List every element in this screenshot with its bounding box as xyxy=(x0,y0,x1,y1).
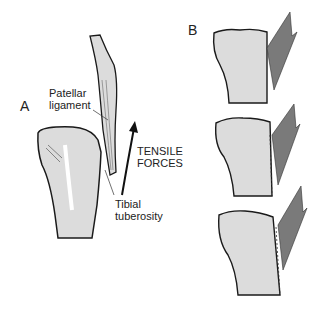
label-tibial-tuberosity: Tibial tuberosity xyxy=(115,198,163,222)
label-patellar-ligament: Patellar ligament xyxy=(49,87,91,111)
tibia-a xyxy=(38,127,101,238)
panel-label-a: A xyxy=(20,98,29,114)
tibia-b-stage-1 xyxy=(214,12,297,103)
tibia-b-stage-2 xyxy=(216,104,300,196)
tensile-arrow xyxy=(122,121,138,195)
tibia-b-stage-3 xyxy=(219,186,307,295)
label-tensile-forces: TENSILE FORCES xyxy=(137,145,183,169)
panel-label-b: B xyxy=(188,22,197,38)
